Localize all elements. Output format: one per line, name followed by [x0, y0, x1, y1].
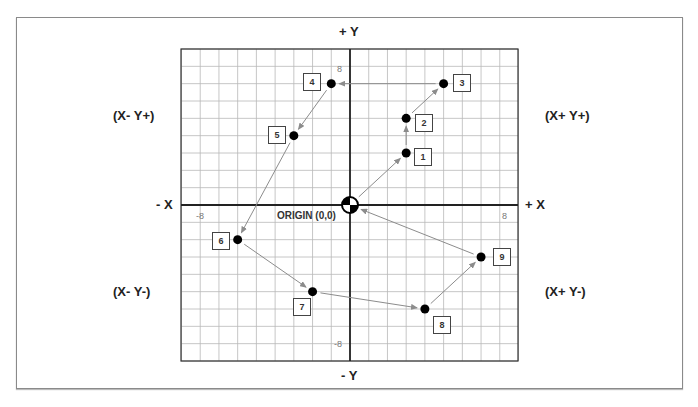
point-label-6: 6: [212, 232, 230, 250]
point-dot-3: [439, 79, 448, 88]
point-dot-7: [308, 287, 317, 296]
point-label-3: 3: [453, 74, 471, 92]
plus-y-label: + Y: [339, 24, 359, 39]
quadrant-4-label: (X+ Y-): [545, 284, 586, 299]
tick-x-pos-8: 8: [502, 211, 507, 221]
point-label-1: 1: [414, 148, 432, 166]
quadrant-1-label: (X+ Y+): [545, 108, 590, 123]
origin-label: ORIGIN (0,0): [277, 210, 336, 221]
tick-y-neg-8: -8: [334, 339, 342, 349]
coordinate-grid: [0, 0, 698, 407]
point-dot-2: [402, 114, 411, 123]
minus-y-label: - Y: [341, 368, 357, 383]
point-label-9: 9: [493, 248, 511, 266]
point-label-2: 2: [415, 114, 433, 132]
tick-y-pos-8: 8: [337, 64, 342, 74]
point-label-7: 7: [293, 298, 311, 316]
path-arrow: [359, 158, 400, 196]
origin-marker-icon: [342, 197, 358, 213]
point-label-4: 4: [303, 73, 321, 91]
point-dot-6: [233, 235, 242, 244]
plus-x-label: + X: [525, 197, 545, 212]
point-label-5: 5: [268, 126, 286, 144]
point-label-8: 8: [433, 316, 451, 334]
point-dot-8: [420, 305, 429, 314]
point-dot-5: [289, 131, 298, 140]
quadrant-3-label: (X- Y-): [113, 284, 150, 299]
path-arrow: [361, 209, 473, 254]
quadrant-2-label: (X- Y+): [113, 108, 154, 123]
path-arrow: [431, 262, 475, 303]
point-dot-4: [327, 79, 336, 88]
minus-x-label: - X: [156, 197, 173, 212]
point-dot-9: [477, 253, 486, 262]
point-dot-1: [402, 149, 411, 158]
tick-x-neg-8: -8: [196, 211, 204, 221]
